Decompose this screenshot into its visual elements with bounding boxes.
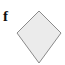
- kite-shape: [0, 0, 65, 65]
- kite-polygon: [17, 11, 61, 63]
